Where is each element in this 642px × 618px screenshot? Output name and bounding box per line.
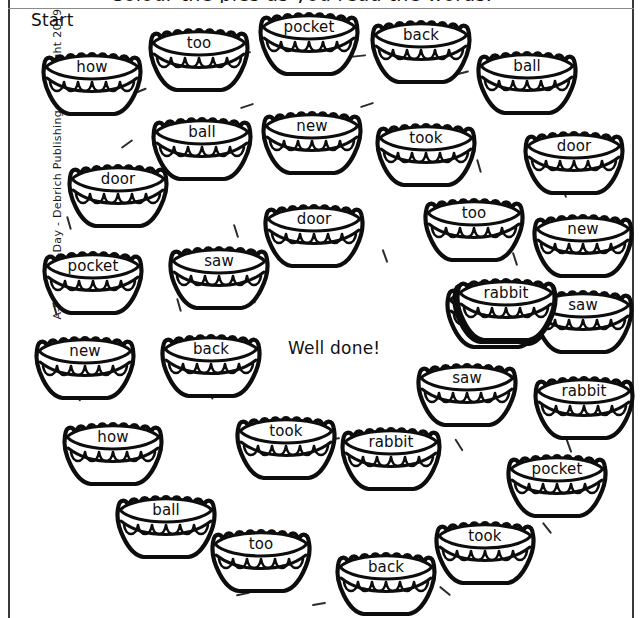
pie-token[interactable]: rabbit	[450, 270, 562, 344]
pie-icon	[253, 4, 365, 78]
pie-icon	[411, 355, 523, 429]
pie-icon	[37, 243, 149, 317]
pie-icon	[62, 156, 174, 230]
path-dash-mark	[382, 249, 389, 263]
pie-icon	[29, 328, 141, 402]
pie-token[interactable]: new	[256, 103, 368, 177]
path-dash-mark	[454, 439, 463, 452]
pie-token[interactable]: door	[518, 123, 630, 197]
pie-icon	[501, 446, 613, 520]
pie-token[interactable]: how	[57, 414, 169, 488]
pie-icon	[528, 368, 640, 442]
pie-icon	[471, 43, 583, 117]
pie-icon	[429, 513, 541, 587]
pie-icon	[155, 326, 267, 400]
pie-token[interactable]: too	[143, 20, 255, 94]
pie-icon	[163, 238, 275, 312]
worksheet-page: Colour the pies as you read the words. A…	[0, 0, 642, 618]
page-frame-left-rule	[8, 0, 10, 618]
pie-token[interactable]: took	[230, 408, 342, 482]
pie-token[interactable]: rabbit	[528, 368, 640, 442]
pie-token[interactable]: saw	[163, 238, 275, 312]
start-label: Start	[31, 10, 74, 30]
pie-icon	[57, 414, 169, 488]
pie-icon	[335, 419, 447, 493]
pie-token[interactable]: new	[527, 206, 639, 280]
pie-token[interactable]: pocket	[253, 4, 365, 78]
pie-token[interactable]: rabbit	[335, 419, 447, 493]
pie-token[interactable]: took	[429, 513, 541, 587]
clipped-heading-text: Colour the pies as you read the words.	[110, 0, 550, 3]
pie-token[interactable]: saw	[411, 355, 523, 429]
pie-icon	[518, 123, 630, 197]
pie-icon	[143, 20, 255, 94]
path-dash-mark	[233, 224, 239, 238]
pie-icon	[527, 206, 639, 280]
pie-token[interactable]: pocket	[37, 243, 149, 317]
pie-icon	[256, 103, 368, 177]
pie-token[interactable]: back	[365, 12, 477, 86]
pie-icon	[450, 270, 562, 344]
path-dash-mark	[542, 522, 552, 534]
pie-token[interactable]: door	[62, 156, 174, 230]
pie-token[interactable]: pocket	[501, 446, 613, 520]
pie-icon	[418, 190, 530, 264]
pie-icon	[370, 115, 482, 189]
path-dash-mark	[121, 139, 134, 149]
pie-token[interactable]: ball	[471, 43, 583, 117]
pie-token[interactable]: took	[370, 115, 482, 189]
pie-icon	[230, 408, 342, 482]
pie-icon	[205, 521, 317, 595]
pie-token[interactable]: back	[330, 544, 442, 618]
well-done-label: Well done!	[288, 338, 380, 358]
pie-token[interactable]: new	[29, 328, 141, 402]
path-dash-mark	[312, 602, 326, 606]
pie-icon	[330, 544, 442, 618]
pie-token[interactable]: how	[36, 44, 148, 118]
pie-token[interactable]: back	[155, 326, 267, 400]
pie-icon	[365, 12, 477, 86]
pie-icon	[36, 44, 148, 118]
pie-token[interactable]: too	[418, 190, 530, 264]
pie-token[interactable]: too	[205, 521, 317, 595]
